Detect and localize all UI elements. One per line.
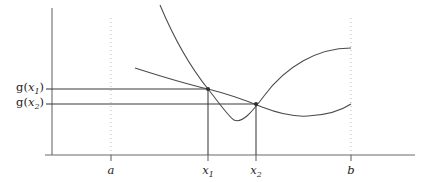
x-axis-label-a-text: a: [108, 163, 115, 177]
x-axis-label-x1: x1: [202, 165, 214, 179]
curve-flat: [135, 68, 351, 116]
plot-canvas: [0, 0, 423, 182]
function-graph-figure: a x1 x2 b g(x1) g(x2): [0, 0, 423, 182]
y-axis-label-gx1-open: g(: [16, 80, 28, 94]
x-axis-label-b-text: b: [347, 163, 354, 177]
intersection-marker-x1: [206, 87, 210, 91]
x-axis-label-b: b: [347, 165, 354, 177]
y-axis-label-gx2-close: ): [40, 95, 45, 109]
intersection-marker-x2: [254, 102, 258, 106]
x-axis-label-a: a: [108, 165, 115, 177]
y-axis-label-gx2: g(x2): [6, 97, 44, 111]
y-axis-label-gx1-close: ): [40, 80, 45, 94]
y-axis-label-gx2-open: g(: [16, 95, 28, 109]
x-axis-label-x1-sub: 1: [209, 170, 214, 179]
x-axis-label-x2-sub: 2: [257, 170, 262, 179]
x-axis-label-x2: x2: [250, 165, 262, 179]
